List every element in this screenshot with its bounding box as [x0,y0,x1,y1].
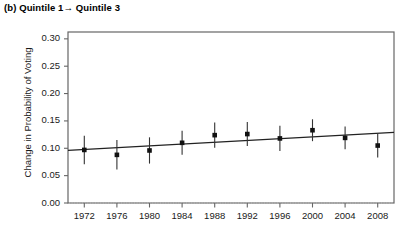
y-axis-tick-label: 0.20 [28,87,60,98]
data-point-marker [343,136,348,141]
data-point-marker [212,133,217,138]
y-axis-tick-label: 0.05 [28,169,60,180]
data-point-marker [82,148,87,153]
y-axis-tick-label: 0.10 [28,142,60,153]
data-point-marker [180,141,185,146]
plot-frame [68,32,394,203]
data-point-marker [147,148,152,153]
data-point-marker [245,132,250,137]
y-axis-tick-label: 0.25 [28,60,60,71]
y-axis-tick-label: 0.15 [28,114,60,125]
y-axis-tick-label: 0.00 [28,197,60,208]
x-axis-tick-label: 2008 [358,210,398,221]
y-axis-tick-label: 0.30 [28,32,60,43]
data-point-marker [278,136,283,141]
plot-area [0,0,413,238]
data-point-marker [115,153,120,158]
data-point-marker [310,128,315,133]
chart-figure: (b) Quintile 1→ Quintile 3 Change in Pro… [0,0,413,238]
data-point-marker [375,143,380,148]
